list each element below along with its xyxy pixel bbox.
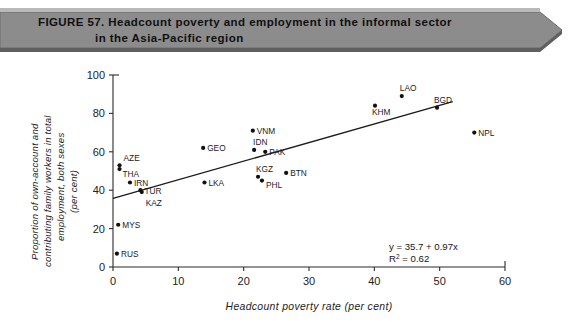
- data-point-marker: [117, 167, 121, 171]
- x-axis-title: Headcount poverty rate (per cent): [226, 301, 393, 312]
- data-point-label: TUR: [144, 186, 161, 196]
- data-point-label: IDN: [253, 137, 267, 147]
- x-tick-label: 0: [110, 275, 116, 287]
- figure-title-text: FIGURE 57. Headcount poverty and employm…: [38, 15, 508, 46]
- r-squared-annotation: R2 = 0.62: [389, 253, 429, 264]
- data-point-label: AZE: [124, 153, 141, 163]
- data-point-label: MYS: [122, 220, 140, 230]
- data-point-marker: [128, 180, 132, 184]
- data-point-label: GEO: [207, 143, 226, 153]
- x-tick-label: 20: [238, 275, 250, 287]
- data-point-marker: [251, 129, 255, 133]
- data-point-marker: [115, 251, 119, 255]
- y-axis-title-line-1: Proportion of own-account and: [29, 123, 40, 260]
- y-axis-ticks: 020406080100: [87, 69, 113, 273]
- x-tick-label: 60: [499, 275, 511, 287]
- x-tick-label: 10: [172, 275, 184, 287]
- y-tick-label: 0: [99, 261, 105, 273]
- x-tick-label: 50: [434, 275, 446, 287]
- data-point-label: BTN: [290, 168, 307, 178]
- data-point-marker: [116, 223, 120, 227]
- regression-equation-annotation: y = 35.7 + 0.97x R2 = 0.62: [389, 241, 458, 264]
- data-point-label: RUS: [121, 249, 139, 259]
- figure-title-line1: Headcount poverty and employment in the …: [108, 16, 452, 28]
- data-point-label: KGZ: [256, 164, 273, 174]
- x-tick-label: 30: [303, 275, 315, 287]
- data-point-label: NPL: [478, 128, 495, 138]
- data-point-marker: [260, 179, 264, 183]
- data-point-marker: [117, 163, 121, 167]
- figure-title-line2: in the Asia-Pacific region: [38, 31, 508, 47]
- data-point-marker: [140, 190, 144, 194]
- plot-canvas: Proportion of own-account and contributi…: [0, 55, 572, 325]
- y-axis-title-line-3: employment, both sexes: [55, 133, 66, 241]
- y-tick-label: 60: [93, 146, 105, 158]
- y-tick-label: 40: [93, 184, 105, 196]
- data-point-marker: [256, 175, 260, 179]
- data-point-label: PAK: [269, 147, 285, 157]
- x-tick-label: 40: [368, 275, 380, 287]
- data-point-marker: [435, 106, 439, 110]
- data-point-marker: [201, 146, 205, 150]
- y-tick-label: 80: [93, 107, 105, 119]
- figure-title-banner: FIGURE 57. Headcount poverty and employm…: [0, 8, 562, 53]
- data-point-label: BGD: [434, 95, 452, 105]
- data-point-label: KHM: [372, 107, 391, 117]
- data-points-group: RUSMYSAZETHAIRNTURKAZLKAGEOVNMIDNPAKKGZP…: [115, 83, 495, 258]
- data-point-marker: [284, 171, 288, 175]
- data-point-label: LKA: [208, 178, 224, 188]
- y-tick-label: 20: [93, 223, 105, 235]
- data-point-marker: [400, 94, 404, 98]
- data-point-label: LAO: [400, 83, 417, 93]
- y-axis-title: Proportion of own-account and contributi…: [29, 115, 79, 267]
- data-point-marker: [202, 180, 206, 184]
- data-point-label: KAZ: [146, 198, 162, 208]
- data-point-marker: [263, 150, 267, 154]
- data-point-marker: [252, 148, 256, 152]
- y-tick-label: 100: [87, 69, 105, 81]
- regression-equation: y = 35.7 + 0.97x: [389, 241, 458, 252]
- x-axis-ticks: 0102030405060: [110, 267, 511, 287]
- data-point-label: VNM: [257, 126, 276, 136]
- data-point-label: PHL: [266, 180, 283, 190]
- scatter-chart: Proportion of own-account and contributi…: [0, 55, 572, 325]
- data-point-marker: [472, 131, 476, 135]
- y-axis-title-line-2: contributing family workers in total: [42, 115, 53, 267]
- figure-number: FIGURE 57.: [38, 16, 105, 28]
- y-axis-title-line-4: (per cent): [68, 170, 79, 213]
